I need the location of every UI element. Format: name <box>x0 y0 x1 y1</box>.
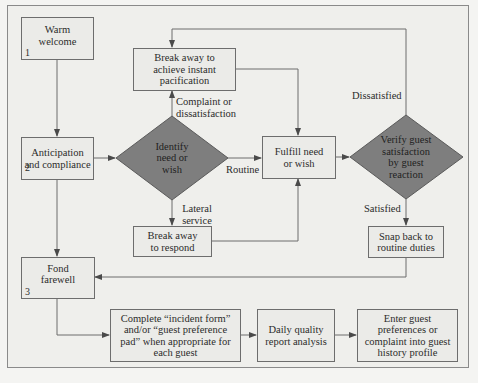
node-anticipation-text: Anticipation and compliance <box>24 147 92 170</box>
node-warm-welcome: Warm welcome 1 <box>21 17 94 60</box>
label-complaint: Complaint or dissatisfaction <box>176 96 244 119</box>
node-fond-farewell: Fond farewell 3 <box>21 257 95 299</box>
node-snap-back-text: Snap back to routine duties <box>371 231 441 254</box>
node-warm-welcome-text: Warm welcome <box>33 24 83 47</box>
step-number-3: 3 <box>25 286 30 298</box>
node-enter-guest: Enter guest preferences or complaint int… <box>357 309 458 362</box>
edge-break-instant-to-fulfill <box>235 69 298 135</box>
step-number-2: 2 <box>25 162 30 174</box>
node-daily-quality-text: Daily quality report analysis <box>261 324 331 347</box>
label-lateral: Lateral service <box>176 203 218 226</box>
node-snap-back: Snap back to routine duties <box>368 226 444 258</box>
node-fulfill: Fulfill need or wish <box>262 136 336 179</box>
decision-identify: Identify need or wish <box>140 136 204 180</box>
label-routine: Routine <box>226 164 259 176</box>
edge-break-respond-to-fulfill <box>211 179 298 241</box>
decision-verify: Verify guest satisfaction by guest react… <box>370 133 442 181</box>
node-fulfill-text: Fulfill need or wish <box>272 146 327 169</box>
node-complete-form-text: Complete “incident form” and/or “guest p… <box>117 313 235 359</box>
node-break-instant: Break away to achieve instant pacificati… <box>133 48 236 91</box>
decision-identify-text: Identify need or wish <box>149 141 195 176</box>
node-break-instant-text: Break away to achieve instant pacificati… <box>144 52 226 87</box>
edge-farewell-to-complete-form <box>57 298 109 335</box>
node-anticipation: Anticipation and compliance 2 <box>21 137 94 180</box>
node-break-respond-text: Break away to respond <box>145 230 200 253</box>
node-enter-guest-text: Enter guest preferences or complaint int… <box>362 313 454 359</box>
step-number-1: 1 <box>25 47 30 59</box>
label-dissatisfied: Dissatisfied <box>352 90 402 102</box>
decision-verify-text: Verify guest satisfaction by guest react… <box>376 134 436 180</box>
edge-snap-back-to-farewell <box>95 257 406 277</box>
node-daily-quality: Daily quality report analysis <box>257 309 335 362</box>
node-complete-form: Complete “incident form” and/or “guest p… <box>110 309 241 362</box>
node-break-respond: Break away to respond <box>133 226 212 257</box>
label-satisfied: Satisfied <box>364 203 401 215</box>
node-fond-farewell-text: Fond farewell <box>38 263 78 286</box>
